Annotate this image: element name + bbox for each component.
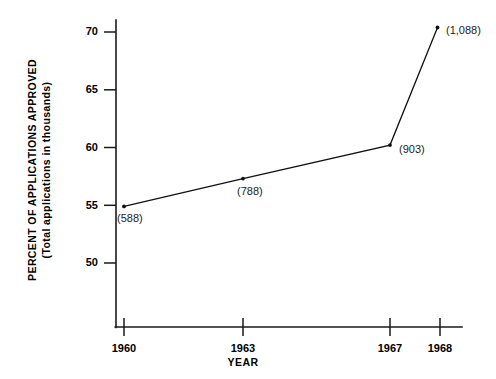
x-axis-tick-labels: 1960 1963 1967 1968 [112,342,452,354]
annotation-1967: (903) [399,143,425,155]
data-point-1960 [122,205,126,209]
x-tick-label-1967: 1967 [378,342,402,354]
y-axis-ticks [104,32,116,263]
y-tick-label-70: 70 [86,25,98,37]
y-axis-title: PERCENT OF APPLICATIONS APPROVED [26,59,38,281]
annotation-1963: (788) [237,185,263,197]
y-axis-tick-labels: 70 65 60 55 50 [86,25,98,268]
x-tick-label-1963: 1963 [231,342,255,354]
chart-container: 70 65 60 55 50 1960 1963 1967 1968 YEAR … [0,0,496,379]
data-series-line [124,28,438,207]
y-tick-label-55: 55 [86,199,98,211]
data-point-1968 [436,26,440,30]
data-point-1967 [388,143,392,147]
annotation-1960: (588) [117,212,143,224]
annotation-1968: (1,088) [446,24,481,36]
y-axis-subtitle: (Total applications in thousands) [40,82,52,259]
y-tick-label-65: 65 [86,83,98,95]
line-chart: 70 65 60 55 50 1960 1963 1967 1968 YEAR … [0,0,496,379]
y-axis-title-group: PERCENT OF APPLICATIONS APPROVED (Total … [26,59,52,281]
x-tick-label-1960: 1960 [112,342,136,354]
x-tick-label-1968: 1968 [428,342,452,354]
data-point-markers [122,26,439,209]
x-axis-title: YEAR [228,356,259,368]
y-tick-label-60: 60 [86,141,98,153]
data-point-1963 [241,177,245,181]
y-tick-label-50: 50 [86,256,98,268]
